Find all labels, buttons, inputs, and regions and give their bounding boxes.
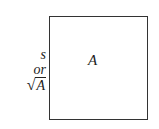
side-label-s: s — [41, 48, 46, 62]
radicand: A — [35, 77, 46, 93]
square-shape — [49, 16, 148, 120]
side-label-or: or — [34, 63, 46, 77]
side-label-sqrt: √A — [27, 77, 46, 93]
area-label: A — [88, 52, 97, 69]
